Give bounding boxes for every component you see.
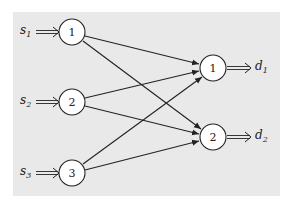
edge-s3-t1 [83, 77, 202, 164]
input-arrow-s3 [36, 168, 59, 178]
output-arrow-t2 [227, 132, 251, 142]
output-arrow-t1 [227, 63, 251, 73]
source-node-3-label: 3 [69, 167, 76, 180]
edge-s3-t2 [85, 141, 199, 170]
output-label-d2: d2 [255, 128, 268, 144]
edge-s2-t1 [85, 71, 199, 98]
edge-s1-t1 [85, 36, 199, 64]
input-label-s1: s1 [20, 23, 31, 39]
source-node-1-label: 1 [69, 26, 76, 39]
edges [83, 36, 202, 170]
source-node-2: 2 [59, 89, 85, 115]
input-label-s3: s3 [20, 164, 31, 180]
output-label-d1: d1 [255, 59, 268, 75]
source-node-2-label: 2 [69, 96, 76, 109]
network-diagram: 1 2 3 1 2 s1 s2 s3 d1 d2 [0, 0, 290, 203]
sink-node-2-label: 2 [210, 131, 217, 144]
sink-node-1: 1 [200, 55, 226, 81]
input-arrow-s2 [36, 97, 59, 107]
source-node-1: 1 [59, 19, 85, 45]
sink-node-1-label: 1 [210, 62, 217, 75]
source-node-3: 3 [59, 160, 85, 186]
input-label-s2: s2 [20, 93, 31, 109]
output-arrows [227, 63, 251, 142]
input-arrows [36, 27, 59, 178]
edge-s2-t2 [85, 106, 199, 134]
input-arrow-s1 [36, 27, 59, 37]
sink-node-2: 2 [200, 124, 226, 150]
